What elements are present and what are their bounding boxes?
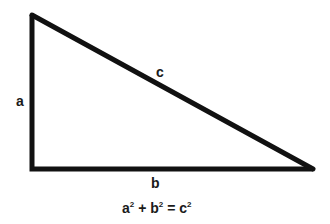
- side-c-label: c: [156, 65, 164, 79]
- formula-b: b: [150, 200, 159, 216]
- side-b-label: b: [151, 176, 160, 190]
- formula-b-exponent: 2: [159, 200, 163, 209]
- formula-equals: =: [167, 200, 175, 216]
- right-triangle: [0, 0, 330, 224]
- formula-c: c: [179, 200, 187, 216]
- formula-a: a: [122, 200, 130, 216]
- formula-plus: +: [138, 200, 146, 216]
- side-a-label: a: [16, 94, 24, 108]
- formula-a-exponent: 2: [130, 200, 134, 209]
- pythagorean-formula: a2 + b2 = c2: [122, 201, 191, 215]
- hypotenuse-line: [32, 15, 313, 169]
- formula-c-exponent: 2: [187, 200, 191, 209]
